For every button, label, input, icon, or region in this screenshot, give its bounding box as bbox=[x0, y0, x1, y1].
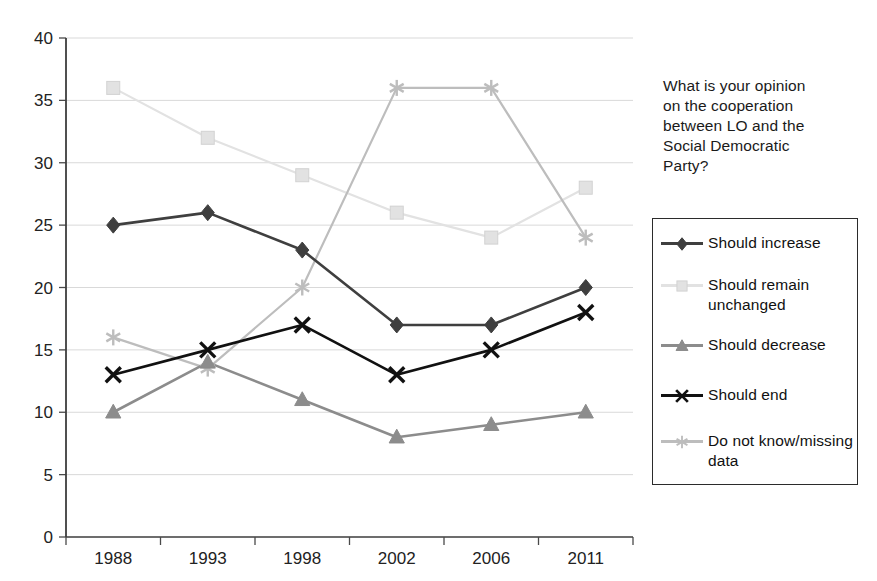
x-tick-label: 1988 bbox=[94, 549, 132, 568]
series-line bbox=[113, 88, 586, 369]
y-tick-label: 30 bbox=[34, 154, 53, 173]
data-point-marker bbox=[579, 230, 593, 246]
data-point-marker bbox=[485, 317, 498, 333]
x-tick-label: 1993 bbox=[189, 549, 227, 568]
x-axis-tick-labels: 198819931998200220062011 bbox=[94, 549, 604, 568]
data-point-marker bbox=[485, 231, 498, 244]
x-tick-label: 2011 bbox=[567, 549, 604, 568]
plot-canvas: 0510152025303540 19881993199820022006201… bbox=[0, 0, 645, 581]
gridlines bbox=[66, 38, 633, 475]
data-point-marker bbox=[579, 280, 592, 296]
line-chart: 0510152025303540 19881993199820022006201… bbox=[0, 0, 645, 581]
y-tick-label: 5 bbox=[44, 466, 53, 485]
y-tick-label: 40 bbox=[34, 29, 53, 48]
data-point-marker bbox=[389, 367, 404, 382]
data-point-marker bbox=[296, 169, 309, 182]
legend-title-line: between LO and the bbox=[663, 116, 868, 136]
legend-item-5[interactable]: Do not know/missing data bbox=[653, 431, 859, 470]
data-point-marker bbox=[390, 317, 403, 333]
series-lines bbox=[113, 88, 586, 437]
chart-screenshot: 0510152025303540 19881993199820022006201… bbox=[0, 0, 877, 581]
series-line bbox=[113, 312, 586, 374]
y-tick-label: 20 bbox=[34, 279, 53, 298]
data-point-marker bbox=[107, 81, 120, 94]
x-tick-label: 2002 bbox=[378, 549, 416, 568]
legend-title-line: Party? bbox=[663, 156, 868, 176]
square-icon bbox=[659, 275, 705, 295]
legend-marker-glyph bbox=[674, 388, 690, 404]
legend-item-label: Should increase bbox=[705, 233, 821, 253]
legend-title: What is your opinionon the cooperationbe… bbox=[663, 76, 868, 176]
data-point-marker bbox=[201, 205, 214, 221]
legend-item-label: Should decrease bbox=[705, 335, 826, 355]
legend-item-3[interactable]: Should decrease bbox=[653, 335, 859, 355]
data-point-marker bbox=[579, 181, 592, 194]
legend-box: Should increaseShould remain unchangedSh… bbox=[652, 218, 858, 485]
data-point-marker bbox=[201, 131, 214, 144]
legend-item-label: Do not know/missing data bbox=[705, 431, 859, 470]
x-tick-label: 2006 bbox=[472, 549, 510, 568]
y-tick-label: 25 bbox=[34, 216, 53, 235]
legend-title-line: Social Democratic bbox=[663, 136, 868, 156]
data-point-marker bbox=[106, 329, 120, 345]
series-line bbox=[113, 362, 586, 437]
legend-item-1[interactable]: Should increase bbox=[653, 233, 859, 253]
data-point-marker bbox=[578, 305, 593, 320]
y-tick-label: 0 bbox=[44, 528, 53, 547]
data-point-marker bbox=[578, 404, 593, 418]
y-tick-label: 15 bbox=[34, 341, 53, 360]
y-axis-tick-labels: 0510152025303540 bbox=[34, 29, 53, 547]
diamond-icon bbox=[659, 233, 705, 253]
y-tick-label: 10 bbox=[34, 403, 53, 422]
data-point-marker bbox=[390, 206, 403, 219]
data-point-marker bbox=[295, 317, 310, 332]
data-point-marker bbox=[106, 367, 121, 382]
legend-marker-glyph bbox=[674, 434, 690, 450]
y-tick-label: 35 bbox=[34, 91, 53, 110]
legend-item-label: Should end bbox=[705, 385, 787, 405]
asterisk-icon bbox=[659, 431, 705, 451]
triangle-icon bbox=[659, 335, 705, 355]
series-line bbox=[113, 213, 586, 325]
legend-marker-glyph bbox=[674, 236, 690, 252]
legend-title-line: on the cooperation bbox=[663, 96, 868, 116]
legend-marker-glyph bbox=[674, 338, 690, 354]
data-point-marker bbox=[107, 217, 120, 233]
legend-item-label: Should remain unchanged bbox=[705, 275, 859, 314]
axes bbox=[59, 38, 633, 545]
legend-region: What is your opinionon the cooperationbe… bbox=[651, 0, 877, 581]
legend-title-line: What is your opinion bbox=[663, 76, 868, 96]
legend-item-4[interactable]: Should end bbox=[653, 385, 859, 405]
data-point-marker bbox=[296, 242, 309, 258]
legend-marker-glyph bbox=[674, 278, 690, 294]
data-point-marker bbox=[106, 404, 121, 418]
x-tick-label: 1998 bbox=[283, 549, 321, 568]
legend-item-2[interactable]: Should remain unchanged bbox=[653, 275, 859, 314]
cross-icon bbox=[659, 385, 705, 405]
